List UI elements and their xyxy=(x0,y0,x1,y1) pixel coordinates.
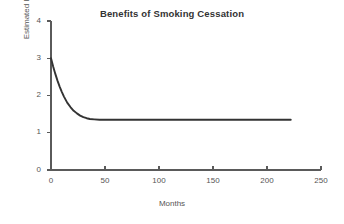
data-series xyxy=(51,58,291,119)
x-tick-label: 50 xyxy=(90,176,120,185)
axes xyxy=(51,21,321,170)
y-tick-label: 0 xyxy=(21,165,41,174)
x-tick-label: 200 xyxy=(252,176,282,185)
y-tick-label: 4 xyxy=(21,16,41,25)
x-tick-label: 250 xyxy=(306,176,336,185)
x-tick-label: 100 xyxy=(144,176,174,185)
axis-ticks xyxy=(47,21,321,170)
x-tick-label: 0 xyxy=(36,176,66,185)
y-tick-label: 1 xyxy=(21,127,41,136)
x-tick-label: 150 xyxy=(198,176,228,185)
chart-container: Benefits of Smoking Cessation Estimated … xyxy=(0,0,344,224)
plot-area xyxy=(0,0,344,224)
y-tick-label: 3 xyxy=(21,53,41,62)
y-tick-label: 2 xyxy=(21,90,41,99)
series-line xyxy=(51,58,291,119)
